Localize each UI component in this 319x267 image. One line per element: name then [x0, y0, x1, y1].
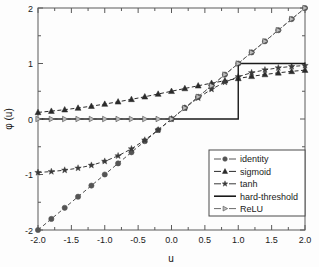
- legend-label: tanh: [240, 179, 258, 189]
- marker-circle: [35, 227, 40, 232]
- marker-triangle-right: [129, 116, 134, 122]
- marker-circle: [89, 183, 94, 188]
- legend-label: ReLU: [240, 204, 263, 214]
- marker-circle: [62, 205, 67, 210]
- x-axis-tick-labels: -2.0-1.5-1.0-0.50.00.51.01.52.0: [30, 235, 311, 245]
- marker-star: [115, 152, 121, 158]
- legend: identitysigmoidtanhhard-thresholdReLU: [209, 150, 305, 216]
- marker-circle: [49, 216, 54, 221]
- legend-label: identity: [240, 154, 269, 164]
- marker-triangle-right: [143, 116, 148, 122]
- marker-circle: [116, 161, 121, 166]
- marker-star: [75, 165, 81, 171]
- marker-star: [61, 167, 67, 173]
- y-axis-title: φ (u): [3, 108, 14, 129]
- x-tick-label: 1.5: [265, 235, 278, 245]
- y-tick-label: 1: [28, 59, 33, 69]
- x-tick-label: 2.0: [299, 235, 312, 245]
- marker-star: [102, 158, 108, 164]
- x-tick-label: -1.5: [64, 235, 80, 245]
- x-tick-label: -2.0: [30, 235, 46, 245]
- marker-triangle-right: [89, 116, 94, 122]
- legend-label: hard-threshold: [240, 192, 298, 202]
- x-axis-title: u: [168, 253, 174, 264]
- marker-triangle-up: [115, 99, 121, 105]
- y-axis-tick-labels: -2-1012: [25, 4, 33, 236]
- marker-triangle-up: [102, 101, 108, 107]
- marker-triangle-right: [103, 116, 108, 122]
- series-sigmoid: [35, 67, 308, 115]
- marker-circle: [75, 194, 80, 199]
- marker-triangle-right: [156, 116, 161, 122]
- marker-triangle-right: [63, 116, 68, 122]
- plot-canvas: -2.0-1.5-1.0-0.50.00.51.01.52.0 -2-1012 …: [0, 0, 319, 267]
- marker-star: [222, 79, 228, 85]
- x-tick-label: 0.5: [199, 235, 212, 245]
- legend-label: sigmoid: [240, 167, 271, 177]
- x-tick-label: 0.0: [165, 235, 178, 245]
- marker-triangle-right: [116, 116, 121, 122]
- marker-triangle-right: [76, 116, 81, 122]
- y-tick-label: 2: [28, 4, 33, 14]
- x-tick-label: -0.5: [130, 235, 146, 245]
- marker-circle: [102, 172, 107, 177]
- marker-triangle-up: [142, 94, 148, 100]
- x-tick-label: -1.0: [97, 235, 113, 245]
- marker-star: [88, 162, 94, 168]
- y-tick-label: -2: [25, 226, 33, 236]
- y-tick-label: -1: [25, 170, 33, 180]
- activation-functions-chart: -2.0-1.5-1.0-0.50.00.51.01.52.0 -2-1012 …: [0, 0, 319, 267]
- marker-triangle-right: [49, 116, 54, 122]
- x-tick-label: 1.0: [232, 235, 245, 245]
- marker-star: [48, 168, 54, 174]
- marker-circle: [223, 157, 228, 162]
- marker-triangle-up: [129, 96, 135, 102]
- y-tick-label: 0: [28, 115, 33, 125]
